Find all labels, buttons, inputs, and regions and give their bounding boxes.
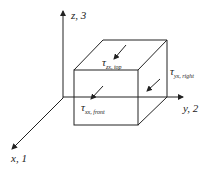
stress-cube-diagram: z, 3 y, 2 x, 1 τzx, top τyx, right τxx, … bbox=[0, 0, 212, 171]
stress-label-top: τzx, top bbox=[102, 56, 122, 70]
y-axis-label: y, 2 bbox=[182, 102, 199, 114]
stress-label-right: τyx, right bbox=[170, 65, 194, 79]
x-axis bbox=[12, 98, 63, 149]
arrow-top-icon bbox=[114, 45, 126, 59]
arrow-right-icon bbox=[147, 79, 160, 91]
z-axis-label: z, 3 bbox=[70, 9, 87, 21]
cube-right-face bbox=[138, 40, 167, 125]
x-axis-label: x, 1 bbox=[10, 152, 27, 164]
